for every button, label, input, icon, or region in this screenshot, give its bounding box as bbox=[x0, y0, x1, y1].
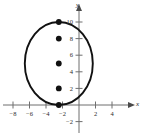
y-tick-label-10: 10 bbox=[58, 19, 73, 26]
x-axis-label: x bbox=[136, 101, 139, 108]
y-tick-label-8: 8 bbox=[60, 36, 73, 43]
y-tick-label-4: 4 bbox=[60, 69, 73, 76]
x-tick-label-neg6: −6 bbox=[22, 111, 38, 118]
y-tick-label-neg2: −2 bbox=[58, 119, 73, 126]
x-tick-label-4: 4 bbox=[104, 111, 120, 118]
data-point bbox=[56, 61, 62, 67]
y-tick-label-6: 6 bbox=[60, 52, 73, 59]
data-point bbox=[56, 102, 62, 108]
chart-figure: x y −8 −6 −4 −2 2 4 2 4 6 8 10 −2 bbox=[0, 0, 143, 137]
y-axis-label: y bbox=[76, 2, 79, 9]
y-tick-label-2: 2 bbox=[60, 86, 73, 93]
x-tick-label-neg4: −4 bbox=[38, 111, 54, 118]
x-axis-arrow-icon bbox=[128, 102, 135, 108]
data-points bbox=[56, 19, 62, 108]
x-tick-label-2: 2 bbox=[88, 111, 104, 118]
x-tick-label-neg8: −8 bbox=[5, 111, 21, 118]
x-tick-label-neg2: −2 bbox=[55, 111, 71, 118]
